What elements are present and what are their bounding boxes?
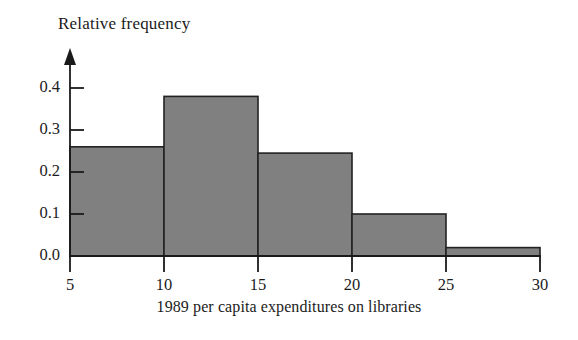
histogram-bar [352,214,446,256]
y-axis-arrow-icon [64,48,76,65]
histogram-bar [446,248,540,256]
y-tick-label: 0.4 [16,77,60,97]
histogram-bar [70,147,164,256]
histogram-bar [258,153,352,256]
x-tick-label: 25 [426,275,466,295]
x-tick-label: 5 [50,275,90,295]
y-tick-label: 0.1 [16,203,60,223]
x-tick-label: 30 [520,275,560,295]
x-tick-label: 20 [332,275,372,295]
histogram-bar [164,96,258,256]
histogram-figure: Relative frequency 0.00.10.20.30.4 51015… [0,0,578,340]
bars-group [70,96,540,256]
y-tick-label: 0.2 [16,161,60,181]
x-tick-label: 15 [238,275,278,295]
x-axis-title: 1989 per capita expenditures on librarie… [0,298,578,316]
x-tick-label: 10 [144,275,184,295]
y-tick-label: 0.0 [16,245,60,265]
y-tick-label: 0.3 [16,119,60,139]
